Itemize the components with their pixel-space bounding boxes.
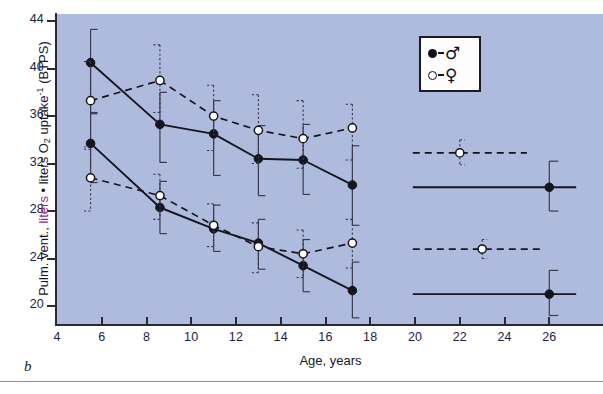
bottom-divider bbox=[0, 381, 603, 382]
x-tick-label: 16 bbox=[309, 330, 343, 344]
data-point-open bbox=[254, 243, 262, 251]
x-tick-mark bbox=[459, 317, 461, 325]
x-tick-label: 14 bbox=[264, 330, 298, 344]
legend-item-male: ♂ bbox=[428, 42, 460, 64]
series-line bbox=[91, 178, 353, 254]
data-point-open bbox=[210, 221, 218, 229]
series-line bbox=[91, 81, 353, 139]
open-circle-icon bbox=[428, 71, 437, 80]
panel-label: b bbox=[24, 358, 32, 375]
series-male bbox=[86, 113, 359, 318]
adult-reference bbox=[413, 270, 576, 315]
x-tick-mark bbox=[235, 317, 237, 325]
data-point-open bbox=[210, 112, 218, 120]
x-tick-mark bbox=[190, 317, 192, 325]
x-tick-label: 4 bbox=[40, 330, 74, 344]
x-tick-label: 8 bbox=[130, 330, 164, 344]
dash-icon bbox=[438, 74, 444, 76]
x-axis-line bbox=[55, 324, 603, 326]
data-point-filled bbox=[545, 290, 554, 299]
data-point-open bbox=[156, 76, 164, 84]
x-tick-label: 10 bbox=[174, 330, 208, 344]
x-tick-mark bbox=[414, 317, 416, 325]
x-tick-mark bbox=[504, 317, 506, 325]
x-tick-mark bbox=[146, 317, 148, 325]
x-tick-label: 24 bbox=[488, 330, 522, 344]
plot-svg bbox=[57, 14, 603, 325]
x-tick-mark bbox=[101, 317, 103, 325]
data-point-open bbox=[299, 135, 307, 143]
legend-box: ♂ ♀ bbox=[419, 36, 481, 92]
data-point-filled bbox=[86, 139, 95, 148]
adult-reference bbox=[413, 140, 527, 165]
data-point-open bbox=[348, 239, 356, 247]
x-tick-mark bbox=[369, 317, 371, 325]
x-tick-label: 22 bbox=[443, 330, 477, 344]
adult-reference bbox=[413, 161, 576, 211]
series-female bbox=[84, 45, 357, 168]
male-symbol-icon: ♂ bbox=[445, 45, 460, 62]
x-tick-label: 6 bbox=[85, 330, 119, 344]
x-tick-mark bbox=[325, 317, 327, 325]
y-title-highlight: liters bbox=[36, 196, 51, 223]
y-axis-line bbox=[55, 13, 57, 326]
y-axis-title: Pulm. vent., liters • liters O2 uptake-1… bbox=[35, 19, 52, 319]
data-point-filled bbox=[348, 181, 357, 190]
data-point-open bbox=[299, 250, 307, 258]
x-tick-mark bbox=[548, 317, 550, 325]
data-point-open bbox=[86, 97, 94, 105]
filled-circle-icon bbox=[428, 49, 437, 58]
series-male bbox=[86, 29, 359, 225]
data-point-open bbox=[348, 124, 356, 132]
legend-item-female: ♀ bbox=[428, 64, 457, 86]
dash-icon bbox=[438, 52, 444, 54]
data-point-filled bbox=[156, 120, 165, 129]
female-symbol-icon: ♀ bbox=[445, 67, 457, 84]
adult-reference bbox=[413, 240, 541, 259]
x-tick-mark bbox=[280, 317, 282, 325]
data-point-open bbox=[254, 126, 262, 134]
data-point-open bbox=[456, 149, 464, 157]
data-point-open bbox=[86, 174, 94, 182]
x-tick-label: 12 bbox=[219, 330, 253, 344]
top-divider bbox=[0, 0, 603, 1]
x-tick-label: 20 bbox=[398, 330, 432, 344]
x-tick-label: 18 bbox=[353, 330, 387, 344]
data-point-filled bbox=[348, 286, 357, 295]
series-female bbox=[84, 149, 357, 277]
figure-panel-b: 20242832364044 468101214161820222426 Pul… bbox=[0, 0, 603, 394]
x-tick-label: 26 bbox=[532, 330, 566, 344]
data-point-open bbox=[156, 192, 164, 200]
plot-area bbox=[57, 14, 603, 325]
series-line bbox=[91, 63, 353, 185]
data-point-open bbox=[478, 245, 486, 253]
x-axis-title: Age, years bbox=[0, 353, 603, 368]
data-point-filled bbox=[545, 183, 554, 192]
